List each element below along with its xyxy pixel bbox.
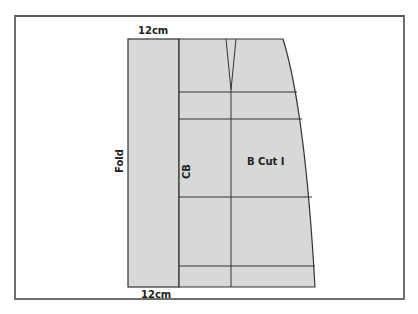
- pattern-diagram: 12cm 12cm Fold CB B Cut I: [0, 0, 418, 314]
- center-back-label: CB: [181, 164, 192, 179]
- fold-extension-panel: [128, 39, 179, 287]
- fold-label: Fold: [114, 149, 125, 173]
- piece-label: B Cut I: [247, 156, 285, 167]
- top-width-label: 12cm: [138, 25, 168, 36]
- bottom-width-label: 12cm: [141, 289, 171, 300]
